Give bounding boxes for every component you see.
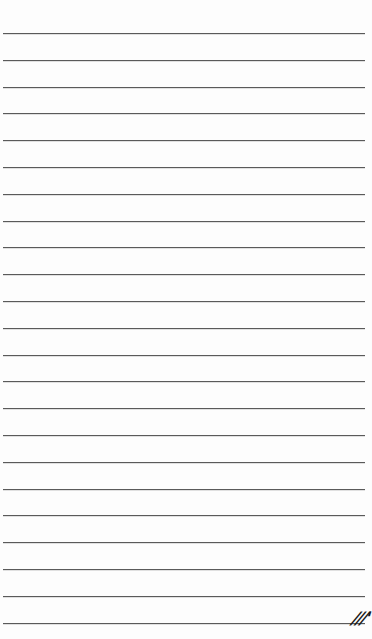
- ruled-line: [3, 274, 365, 275]
- ruled-line: [3, 221, 365, 222]
- ruled-line: [3, 167, 365, 168]
- ruled-line: [3, 542, 365, 543]
- ruled-line: [3, 596, 365, 597]
- ruled-line: [3, 355, 365, 356]
- ruled-line: [3, 569, 365, 570]
- ruled-line: [3, 489, 365, 490]
- ruled-line: [3, 87, 365, 88]
- ruled-line: [3, 247, 365, 248]
- ruled-line: [3, 140, 365, 141]
- ruled-line: [3, 60, 365, 61]
- ruled-line: [3, 194, 365, 195]
- ruled-line: [3, 328, 365, 329]
- ruled-line: [3, 408, 365, 409]
- ruled-line: [3, 301, 365, 302]
- ruled-line: [3, 515, 365, 516]
- ruled-line: [3, 623, 365, 624]
- ruled-line: [3, 113, 365, 114]
- ruled-line: [3, 33, 365, 34]
- ruled-line: [3, 462, 365, 463]
- ruled-line: [3, 381, 365, 382]
- ruled-line: [3, 435, 365, 436]
